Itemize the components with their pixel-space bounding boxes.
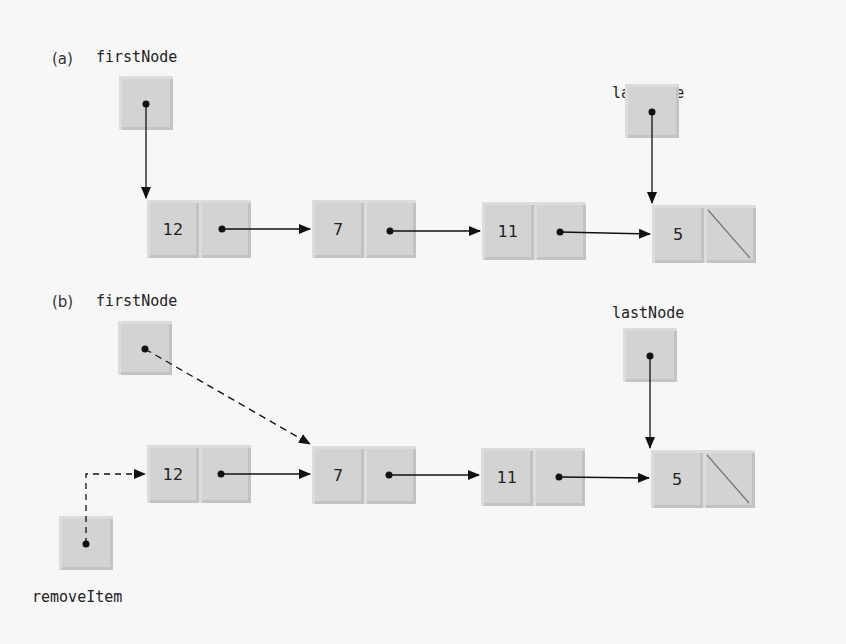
node-null-pointer [703, 450, 755, 508]
first-node-label-b: firstNode [96, 292, 177, 310]
first-node-reference-a [119, 76, 173, 130]
remove-item-label: removeItem [32, 588, 122, 606]
last-node-reference-a [625, 84, 679, 138]
remove-item-reference [59, 516, 113, 570]
node-next-pointer [534, 202, 586, 260]
node-data: 11 [481, 448, 533, 506]
last-node-label-b: lastNode [612, 304, 684, 322]
node-next-pointer [533, 448, 585, 506]
first-node-label-a: firstNode [96, 48, 177, 66]
list-node-b-7: 7 [312, 446, 416, 504]
node-data: 7 [312, 200, 364, 258]
part-a-label: (a) [52, 50, 73, 68]
first-node-reference-b [118, 321, 172, 375]
last-node-reference-b [623, 328, 677, 382]
list-node-b-12: 12 [147, 445, 251, 503]
node-null-pointer [704, 205, 756, 263]
node-data: 7 [312, 446, 364, 504]
list-node-a-11: 11 [482, 202, 586, 260]
list-node-a-5: 5 [652, 205, 756, 263]
part-b-label: (b) [52, 293, 73, 311]
node-next-pointer [199, 445, 251, 503]
list-node-b-5: 5 [651, 450, 755, 508]
node-data: 5 [651, 450, 703, 508]
node-next-pointer [199, 200, 251, 258]
list-node-a-7: 7 [312, 200, 416, 258]
list-node-a-12: 12 [147, 200, 251, 258]
list-node-b-11: 11 [481, 448, 585, 506]
node-data: 5 [652, 205, 704, 263]
node-data: 12 [147, 200, 199, 258]
node-next-pointer [364, 200, 416, 258]
node-data: 12 [147, 445, 199, 503]
node-data: 11 [482, 202, 534, 260]
node-next-pointer [364, 446, 416, 504]
linked-list-diagram: (a) firstNode lastNode 12 7 11 5 (b) fir… [0, 0, 846, 644]
